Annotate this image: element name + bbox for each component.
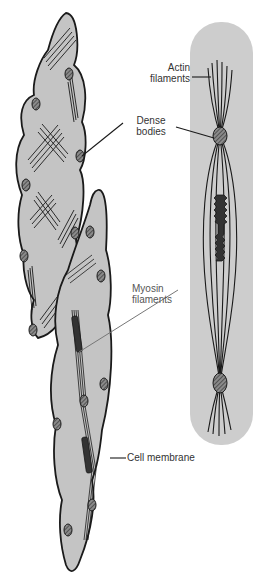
cell-membrane-label: Cell membrane	[127, 452, 217, 463]
actin-label-line2: filaments	[140, 73, 190, 84]
myosin-label-line1: Myosin	[132, 283, 192, 294]
dense-label-line1: Dense	[126, 115, 176, 126]
dense-bodies-label: Dense bodies	[126, 115, 176, 137]
myosin-label-line2: filaments	[132, 294, 192, 305]
dense-label-line2: bodies	[126, 126, 176, 137]
smooth-muscle-diagram	[0, 0, 259, 579]
actin-filaments-label: Actin filaments	[140, 62, 190, 84]
myosin-filaments-label: Myosin filaments	[132, 283, 192, 305]
membrane-label-text: Cell membrane	[127, 452, 195, 463]
actin-label-line1: Actin	[140, 62, 190, 73]
